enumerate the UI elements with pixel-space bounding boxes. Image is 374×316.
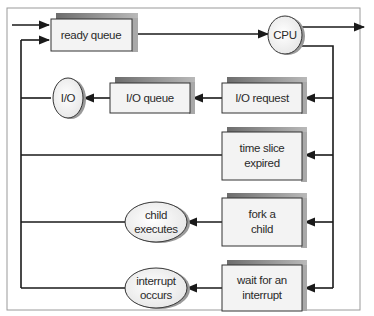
child-executes-label-1: child [145,209,167,221]
interrupt-occurs-label-2: occurs [140,289,173,301]
wait-interrupt-label-1: wait for an [236,274,287,286]
io-label: I/O [61,92,76,104]
io-queue-node: I/O queue [110,77,195,114]
wait-interrupt-label-2: interrupt [242,289,283,301]
time-slice-label-1: time slice [240,142,285,154]
cpu-label: CPU [273,29,296,41]
fork-node: fork a child [222,193,307,248]
fork-label-2: child [251,223,273,235]
io-request-label: I/O request [235,92,290,104]
time-slice-node: time slice expired [222,127,307,182]
interrupt-occurs-node: interrupt occurs [125,268,190,309]
io-request-node: I/O request [222,77,307,114]
ready-queue-label: ready queue [61,29,122,41]
wait-interrupt-node: wait for an interrupt [222,260,307,311]
process-scheduling-diagram: ready queue CPU I/O I/O queue I/O reques… [0,0,374,316]
ready-queue-node: ready queue [51,13,138,52]
io-node: I/O [53,78,86,119]
diagram-frame [7,8,360,310]
io-queue-label: I/O queue [126,92,174,104]
child-executes-label-2: executes [134,223,178,235]
cpu-node: CPU [268,16,305,55]
interrupt-occurs-label-1: interrupt [136,275,177,287]
child-executes-node: child executes [125,202,190,243]
fork-label-1: fork a [249,208,277,220]
time-slice-label-2: expired [244,157,280,169]
connectors [12,25,364,288]
